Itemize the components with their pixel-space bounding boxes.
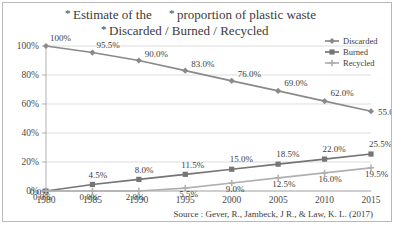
xtick-label-2010: 2010 <box>315 195 334 205</box>
ytick-label-80%: 80% <box>22 70 40 80</box>
xtick-label-2000: 2000 <box>222 195 241 205</box>
chart-container: *Estimate of the*proportion of plastic w… <box>2 2 392 222</box>
data-label-recycled-2010: 16.0% <box>319 174 343 184</box>
data-label-recycled-2015: 19.5% <box>365 169 389 179</box>
data-label-discarded-2010: 62.0% <box>331 88 355 98</box>
legend-marker-burned <box>329 49 334 54</box>
series-recycled: 0.0%0.0%2.0%5.5%9.0%12.5%16.0%19.5% <box>33 165 389 202</box>
marker-burned-1985 <box>90 182 95 187</box>
marker-burned-1990 <box>136 177 141 182</box>
marker-discarded-1990 <box>136 57 142 63</box>
data-label-burned-1990: 8.0% <box>135 165 154 175</box>
data-label-recycled-1980: 0.0% <box>33 192 52 202</box>
title-line2: Discarded / Burned / Recycled <box>109 23 269 38</box>
marker-burned-2010 <box>322 157 327 162</box>
title-line1-part1: Estimate of the <box>73 7 152 22</box>
marker-discarded-1985 <box>89 49 95 55</box>
data-label-recycled-2005: 12.5% <box>272 179 296 189</box>
data-label-burned-1995: 11.5% <box>181 160 204 170</box>
marker-discarded-2010 <box>321 98 327 104</box>
legend-label-recycled: Recycled <box>343 58 375 68</box>
legend-marker-discarded <box>329 38 335 44</box>
data-label-discarded-2015: 55.0% <box>378 107 391 117</box>
chart-canvas: *Estimate of the*proportion of plastic w… <box>3 3 391 221</box>
legend-label-discarded: Discarded <box>343 36 378 46</box>
marker-discarded-1980 <box>43 43 49 49</box>
legend: DiscardedBurnedRecycled <box>325 36 378 68</box>
title-asterisk-1: * <box>65 7 71 19</box>
data-label-discarded-1985: 95.5% <box>96 40 120 50</box>
xtick-label-2005: 2005 <box>269 195 288 205</box>
ytick-label-60%: 60% <box>22 99 40 109</box>
data-label-discarded-2000: 76.0% <box>238 69 262 79</box>
marker-burned-2005 <box>276 162 281 167</box>
data-label-recycled-2000: 9.0% <box>226 184 245 194</box>
data-label-burned-2015: 25.5% <box>369 139 391 149</box>
marker-burned-2000 <box>229 167 234 172</box>
marker-discarded-2015 <box>368 108 374 114</box>
data-label-recycled-1985: 0.0% <box>79 192 98 202</box>
marker-burned-1995 <box>183 172 188 177</box>
ytick-label-40%: 40% <box>22 128 40 138</box>
ytick-label-20%: 20% <box>22 157 40 167</box>
marker-discarded-2005 <box>275 88 281 94</box>
data-label-discarded-1995: 83.0% <box>191 59 215 69</box>
title-asterisk-3: * <box>101 23 107 35</box>
data-label-discarded-2005: 69.0% <box>284 78 308 88</box>
marker-discarded-1995 <box>182 68 188 74</box>
series-burned: 0.0%4.5%8.0%11.5%15.0%18.5%22.0%25.5% <box>30 139 391 197</box>
xtick-label-2015: 2015 <box>362 195 381 205</box>
data-label-burned-2010: 22.0% <box>323 144 347 154</box>
data-label-burned-1985: 4.5% <box>88 170 107 180</box>
data-label-recycled-1995: 5.5% <box>179 189 198 199</box>
legend-label-burned: Burned <box>343 47 369 57</box>
marker-discarded-2000 <box>229 78 235 84</box>
data-label-discarded-1990: 90.0% <box>145 49 169 59</box>
chart-title: *Estimate of the*proportion of plastic w… <box>65 7 316 38</box>
source-citation: Source : Gever, R., Jambeck, J R., & Law… <box>173 209 373 219</box>
title-asterisk-2: * <box>169 7 175 19</box>
data-label-burned-2005: 18.5% <box>276 149 300 159</box>
data-label-discarded-1980: 100% <box>50 33 72 43</box>
ytick-label-100%: 100% <box>17 41 39 51</box>
data-label-recycled-1990: 2.0% <box>126 192 145 202</box>
marker-burned-2015 <box>368 151 373 156</box>
title-line1-part2: proportion of plastic waste <box>177 7 316 22</box>
data-label-burned-2000: 15.0% <box>230 154 254 164</box>
